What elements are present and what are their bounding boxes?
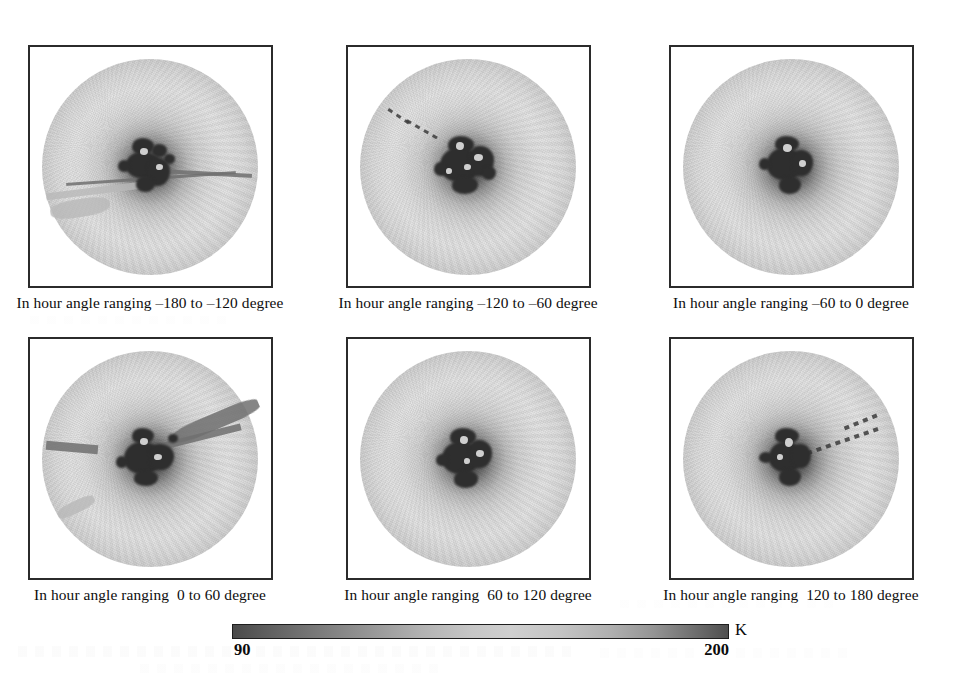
page-bleed-through-artifact <box>30 316 230 324</box>
panel-ha-0-60: In hour angle ranging 0 to 60 degree <box>0 337 300 604</box>
panel-caption: In hour angle ranging 0 to 60 degree <box>0 587 300 604</box>
panel-ha--180--120: In hour angle ranging –180 to –120 degre… <box>0 45 300 312</box>
panel-ha-120-180: In hour angle ranging 120 to 180 degree <box>641 337 941 604</box>
galactic-centre-core <box>434 136 502 198</box>
galactic-centre-core <box>116 428 184 490</box>
colorbar-tick-labels: 90 200 <box>232 640 729 662</box>
sky-disc <box>42 59 258 275</box>
sky-map-frame <box>669 45 914 288</box>
sky-map-frame <box>669 337 914 580</box>
galactic-centre-core <box>434 428 502 490</box>
sky-map-frame <box>28 45 273 288</box>
panel-caption: In hour angle ranging 120 to 180 degree <box>641 587 941 604</box>
colorbar-max-label: 200 <box>704 640 729 660</box>
panel-ha--60-0: In hour angle ranging –60 to 0 degree <box>641 45 941 312</box>
colorbar-block: 90 200 K <box>232 624 729 662</box>
sky-disc <box>683 59 899 275</box>
sky-map-frame <box>346 337 591 580</box>
page-bleed-through-artifact <box>140 664 440 673</box>
sky-disc <box>683 351 899 567</box>
sky-map-frame <box>346 45 591 288</box>
sky-disc <box>360 59 576 275</box>
sky-map-frame <box>28 337 273 580</box>
colorbar-unit-label: K <box>735 620 747 640</box>
colorbar-min-label: 90 <box>234 640 251 660</box>
sky-disc <box>360 351 576 567</box>
panel-caption: In hour angle ranging –60 to 0 degree <box>641 295 941 312</box>
panel-ha--120--60: In hour angle ranging –120 to –60 degree <box>318 45 618 312</box>
panel-caption: In hour angle ranging 60 to 120 degree <box>318 587 618 604</box>
figure-root: In hour angle ranging –180 to –120 degre… <box>0 0 957 693</box>
panel-ha-60-120: In hour angle ranging 60 to 120 degree <box>318 337 618 604</box>
panel-caption: In hour angle ranging –180 to –120 degre… <box>0 295 300 312</box>
panel-caption: In hour angle ranging –120 to –60 degree <box>318 295 618 312</box>
sky-disc <box>42 351 258 567</box>
galactic-centre-core <box>757 428 825 490</box>
galactic-centre-core <box>757 136 825 198</box>
galactic-centre-core <box>116 136 184 198</box>
colorbar-gradient <box>232 624 729 639</box>
